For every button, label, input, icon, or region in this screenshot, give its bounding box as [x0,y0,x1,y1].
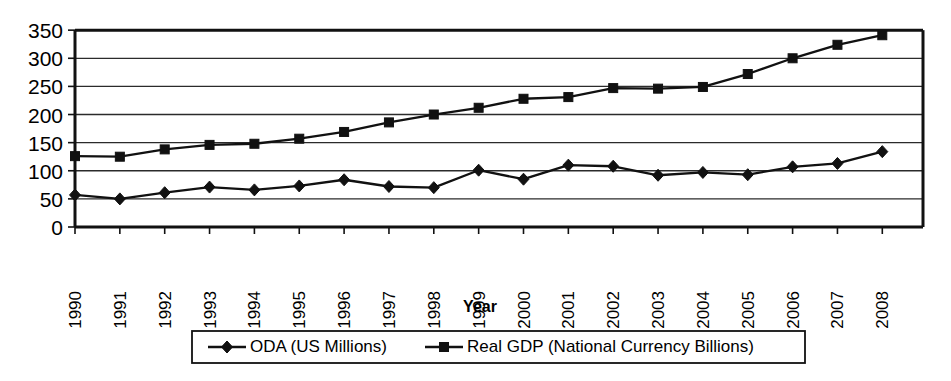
diamond-marker-icon [563,159,574,171]
y-axis-tick-label: 100 [28,160,63,183]
chart-legend: ODA (US Millions)Real GDP (National Curr… [192,331,805,363]
diamond-marker-icon [339,174,350,186]
x-axis-tick-label: 2007 [828,291,847,329]
diamond-marker-icon [114,193,125,205]
square-marker-icon [440,343,449,352]
square-marker-icon [340,127,349,136]
diamond-marker-icon [204,181,215,193]
square-marker-icon [788,54,797,63]
x-axis-tick-label: 2008 [873,291,892,329]
y-axis-tick-label: 350 [28,19,63,42]
diamond-marker-icon [249,184,260,196]
series-1 [70,146,888,205]
x-axis-tick-label: 1995 [290,291,309,329]
square-marker-icon [519,94,528,103]
diamond-marker-icon [473,164,484,176]
diamond-marker-icon [697,166,708,178]
diamond-marker-icon [518,173,529,185]
x-axis-tick-label: 1990 [66,291,85,329]
x-axis-tick-label: 2005 [739,291,758,329]
diamond-marker-icon [159,187,170,199]
data-series-group [70,31,888,205]
square-marker-icon [833,40,842,49]
square-marker-icon [564,93,573,102]
y-axis-tick-label: 200 [28,104,63,127]
x-axis-tick-label: 2003 [649,291,668,329]
square-marker-icon [878,31,887,40]
square-marker-icon [384,118,393,127]
diamond-marker-icon [832,157,843,169]
square-marker-icon [698,82,707,91]
y-axis-tick-labels-group: 050100150200250300350 [28,19,63,239]
square-marker-icon [743,70,752,79]
legend-label: ODA (US Millions) [250,337,387,356]
x-axis-tick-label: 1991 [111,291,130,329]
square-marker-icon [474,103,483,112]
diamond-marker-icon [428,182,439,194]
square-marker-icon [115,152,124,161]
y-axis-tick-label: 50 [40,188,63,211]
y-axis-tick-label: 300 [28,47,63,70]
chart-container: 050100150200250300350 199019911992199319… [0,0,951,381]
square-marker-icon [429,110,438,119]
diamond-marker-icon [383,181,394,193]
x-axis-tick-label: 1994 [245,291,264,329]
series-line [75,35,882,156]
x-axis-tick-label: 2001 [559,291,578,329]
x-axis-tick-label: 2004 [694,291,713,329]
x-axis-tick-label: 1993 [201,291,220,329]
square-marker-icon [250,139,259,148]
x-axis-tick-label: 1997 [380,291,399,329]
square-marker-icon [160,145,169,154]
legend-label: Real GDP (National Currency Billions) [467,337,754,356]
diamond-marker-icon [294,180,305,192]
x-axis-tick-label: 2002 [604,291,623,329]
series-2 [71,31,887,161]
legend-item-2: Real GDP (National Currency Billions) [425,337,754,356]
y-axis-tick-label: 150 [28,132,63,155]
x-axis-tick-label: 1996 [335,291,354,329]
line-chart: 050100150200250300350 199019911992199319… [0,0,951,381]
square-marker-icon [609,84,618,93]
square-marker-icon [654,84,663,93]
square-marker-icon [71,152,80,161]
square-marker-icon [295,134,304,143]
diamond-marker-icon [877,146,888,158]
x-axis-tick-label: 2006 [784,291,803,329]
y-axis-tick-label: 0 [51,216,63,239]
x-axis-tick-label: 1992 [156,291,175,329]
square-marker-icon [205,140,214,149]
x-axis-tick-label: 2000 [515,291,534,329]
y-axis-tick-label: 250 [28,75,63,98]
x-axis-tick-label: 1998 [425,291,444,329]
x-axis-title: Year [463,298,497,315]
